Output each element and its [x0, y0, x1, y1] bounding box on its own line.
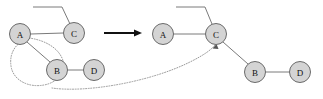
right-node-a[interactable]: A [153, 24, 174, 45]
left-edge-a-c [31, 33, 64, 34]
node-circle [153, 24, 174, 45]
right-node-c[interactable]: C [206, 24, 227, 45]
node-circle [64, 23, 85, 44]
right-node-d[interactable]: D [290, 62, 311, 83]
left-edge-a-b [27, 42, 50, 62]
node-circle [10, 24, 31, 45]
after-graph: A C B D [153, 7, 311, 83]
before-graph: A C B D [10, 7, 105, 86]
right-edge-c-b [223, 42, 248, 64]
right-node-b[interactable]: B [245, 62, 266, 83]
left-node-b[interactable]: B [47, 60, 68, 81]
node-circle [290, 62, 311, 83]
left-node-a[interactable]: A [10, 24, 31, 45]
merge-transfer-curve [52, 44, 219, 89]
transfer-curve-path [52, 45, 215, 89]
node-circle [245, 62, 266, 83]
node-circle [47, 60, 68, 81]
left-top-stub-edge [33, 7, 70, 24]
left-node-c[interactable]: C [64, 23, 85, 44]
arrow-head-icon [134, 30, 142, 37]
node-circle [206, 24, 227, 45]
transformation-arrow [104, 30, 142, 37]
left-node-d[interactable]: D [84, 60, 105, 81]
diagram-svg: A C B D [0, 0, 323, 99]
diagram-canvas: A C B D [0, 0, 323, 99]
node-circle [84, 60, 105, 81]
right-top-stub-edge [176, 7, 212, 24]
